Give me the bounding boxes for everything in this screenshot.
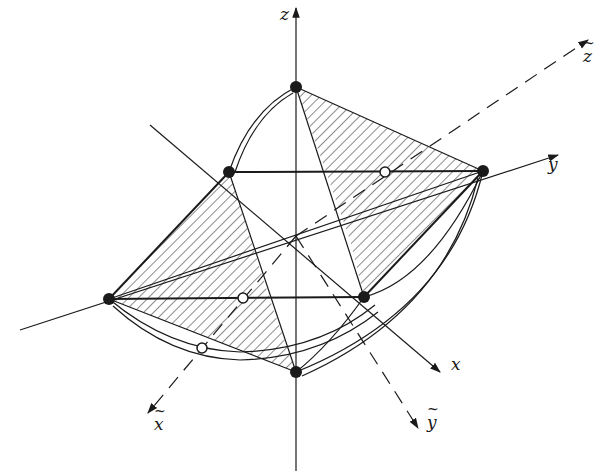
tilde-y: ~ [427,401,439,417]
diagram-canvas: z y x z ~ y ~ x ~ [0,0,607,471]
hatched-top-right [296,87,483,297]
open-point-1 [380,167,390,177]
vertex-bottom [290,366,302,378]
label-y: y [547,154,558,174]
label-x: x [451,354,461,374]
axes-solid [20,8,558,471]
vertex-lower-right [358,291,370,303]
vertex-top [290,81,302,93]
tilde-z: ~ [583,35,595,51]
label-z: z [279,4,290,24]
open-point-3 [197,343,207,353]
hatched-left [109,172,296,372]
tilde-x: ~ [154,403,166,419]
vertex-left [103,293,115,305]
y-axis [20,155,558,330]
vertex-right [477,165,489,177]
vertex-upper-left [223,166,235,178]
open-point-2 [238,293,248,303]
